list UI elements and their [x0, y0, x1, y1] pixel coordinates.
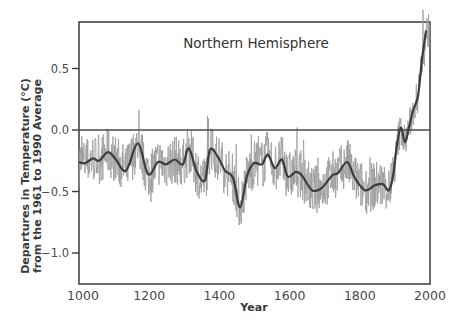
y-tick-label: −0.5 — [41, 185, 69, 199]
y-tick-label: 0.5 — [51, 62, 69, 76]
x-tick-label: 1400 — [203, 288, 235, 303]
chart-canvas: 0.50.0−0.5−1.0 100012001400160018002000 … — [0, 0, 454, 333]
x-tick-label: 1600 — [274, 288, 306, 303]
y-axis: 0.50.0−0.5−1.0 — [41, 62, 79, 261]
x-tick-label: 1800 — [344, 288, 376, 303]
temperature-chart: 0.50.0−0.5−1.0 100012001400160018002000 … — [0, 0, 454, 333]
x-tick-label: 1200 — [133, 288, 165, 303]
y-tick-label: −1.0 — [41, 246, 69, 260]
chart-title: Northern Hemisphere — [183, 35, 329, 51]
x-axis-title: Year — [239, 301, 268, 314]
y-tick-label: 0.0 — [51, 123, 69, 137]
y-axis-title-line-2: from the 1961 to 1990 Average — [31, 79, 44, 273]
x-tick-label: 2000 — [414, 288, 446, 303]
y-axis-title: Departures in Temperature (°C) from the … — [19, 78, 44, 274]
x-tick-label: 1000 — [67, 288, 99, 303]
